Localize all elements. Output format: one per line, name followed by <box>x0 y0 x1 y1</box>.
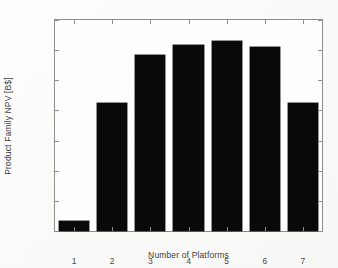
x-tick-mark-top <box>150 20 151 24</box>
y-tick-mark-right <box>318 171 322 172</box>
y-axis-title-text: Product Family NPV [B$] <box>3 77 13 174</box>
bar-slot <box>55 20 93 231</box>
y-tick-mark-right <box>318 231 322 232</box>
x-tick-mark-top <box>227 20 228 24</box>
bar-slot <box>169 20 207 231</box>
y-tick-mark-right <box>318 141 322 142</box>
bar-slot <box>93 20 131 231</box>
y-tick-mark <box>55 80 59 81</box>
y-axis-title: Product Family NPV [B$] <box>2 19 14 232</box>
bar[interactable] <box>212 41 242 231</box>
y-tick-mark-right <box>318 50 322 51</box>
bar[interactable] <box>135 55 165 231</box>
x-tick-mark <box>150 227 151 231</box>
x-tick-mark <box>189 227 190 231</box>
y-tick-mark-right <box>318 201 322 202</box>
y-tick-mark <box>55 20 59 21</box>
bar[interactable] <box>250 47 280 231</box>
x-tick-mark-top <box>265 20 266 24</box>
y-tick-mark <box>55 201 59 202</box>
plot-area: 100010501100115012001250130013501234567 <box>54 19 323 232</box>
y-tick-mark <box>55 171 59 172</box>
bar[interactable] <box>97 103 127 231</box>
y-tick-mark <box>55 141 59 142</box>
y-tick-mark <box>55 231 59 232</box>
y-tick-mark <box>55 110 59 111</box>
x-tick-mark <box>112 227 113 231</box>
bar[interactable] <box>288 103 318 231</box>
y-tick-mark-right <box>318 80 322 81</box>
chart-figure: 100010501100115012001250130013501234567 … <box>0 0 338 268</box>
x-tick-mark <box>74 227 75 231</box>
x-tick-mark-top <box>112 20 113 24</box>
x-tick-mark <box>303 227 304 231</box>
x-tick-mark-top <box>303 20 304 24</box>
y-tick-mark-right <box>318 20 322 21</box>
x-tick-mark-top <box>74 20 75 24</box>
bar-slot <box>284 20 322 231</box>
y-tick-mark <box>55 50 59 51</box>
bars-layer <box>55 20 322 231</box>
bar[interactable] <box>173 45 203 231</box>
x-tick-mark <box>265 227 266 231</box>
bar-slot <box>131 20 169 231</box>
x-axis-title: Number of Platforms <box>54 250 323 260</box>
x-tick-mark-top <box>189 20 190 24</box>
x-axis-title-text: Number of Platforms <box>148 250 229 260</box>
x-tick-mark <box>227 227 228 231</box>
bar-slot <box>246 20 284 231</box>
bar-slot <box>208 20 246 231</box>
y-tick-mark-right <box>318 110 322 111</box>
